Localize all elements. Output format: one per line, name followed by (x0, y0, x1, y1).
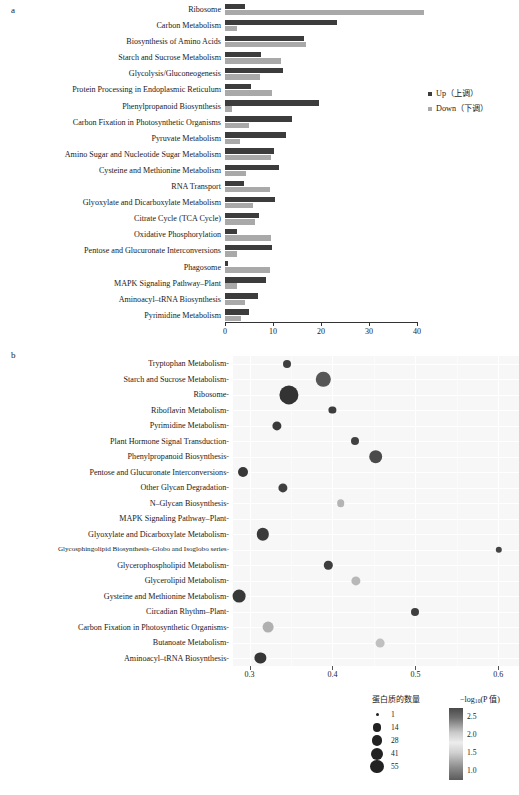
size-legend-dot (370, 760, 384, 774)
dot-plot-row: Glycerolipid Metabolism- (0, 573, 233, 589)
size-legend-label: 55 (391, 762, 399, 771)
bar-chart-row: Starch and Sucrose Metabolism (0, 50, 519, 66)
dot-plot-category-label: Glycerolipid Metabolism- (145, 573, 229, 589)
size-legend-item: 41 (355, 747, 437, 760)
bar-chart-category-label: Oxidative Phosphorylation (0, 227, 224, 243)
dot-plot-point (351, 576, 360, 585)
bar-chart-category-label: Ribosome (0, 2, 224, 18)
axis-tick-dash: - (226, 638, 229, 647)
dot-plot-category-text: Glycerophospholipid Metabolism (117, 561, 226, 570)
bar-chart-bar-group (225, 276, 425, 292)
axis-tick (321, 322, 322, 326)
axis-tick-dash: - (227, 545, 229, 553)
dot-plot-point (324, 561, 332, 569)
bar-up (225, 309, 249, 314)
axis-tick-label: 0.5 (410, 670, 420, 679)
bar-chart-row: Phagosome (0, 260, 519, 276)
axis-tick-dash: - (226, 561, 229, 570)
bar-chart-bar-group (225, 179, 425, 195)
axis-tick-dash: - (226, 375, 229, 384)
bar-down (225, 58, 281, 63)
dot-plot-row: Ribosome- (0, 387, 233, 403)
bar-chart-category-label: Carbon Metabolism (0, 18, 224, 34)
bar-up (225, 213, 259, 218)
dot-plot-row: Carbon Fixation in Photosynthetic Organi… (0, 620, 233, 636)
bar-chart-bar-group (225, 163, 425, 179)
axis-tick-label: 0.6 (493, 670, 503, 679)
bar-chart-bar-group (225, 292, 425, 308)
legend-swatch-up (428, 92, 432, 96)
axis-tick-dash: - (226, 421, 229, 430)
bar-chart-row: Biosynthesis of Amino Acids (0, 34, 519, 50)
dot-plot-points (233, 356, 519, 666)
bar-up (225, 132, 286, 137)
dot-plot-category-text: Glycosphingolipid Biosynthesis–Globo and… (58, 545, 227, 553)
dot-plot-category-label: N–Glycan Biosynthesis- (150, 496, 229, 512)
axis-tick-label: 0 (223, 327, 227, 336)
bar-chart-row: Carbon Fixation in Photosynthetic Organi… (0, 115, 519, 131)
bar-chart-row: Cysteine and Methionine Metabolism (0, 163, 519, 179)
axis-tick-dash: - (226, 483, 229, 492)
bar-chart-row: Aminoacyl–tRNA Biosynthesis (0, 292, 519, 308)
size-legend-label: 1 (391, 710, 395, 719)
bar-down (225, 187, 270, 192)
bar-up (225, 229, 237, 234)
axis-tick-dash: - (226, 499, 229, 508)
dot-plot-category-label: Pyrimidine Metabolism- (150, 418, 229, 434)
bar-chart-category-label: Glyoxylate and Dicarboxylate Metabolism (0, 195, 224, 211)
size-legend-dot-cell (367, 760, 387, 774)
color-legend-tick-label: 1.5 (467, 748, 477, 757)
size-legend-dot (372, 735, 383, 746)
bar-down (225, 10, 424, 15)
dot-plot-row: Phenylpropanoid Biosynthesis- (0, 449, 233, 465)
dot-plot-category-text: Tryptophan Metabolism (148, 359, 226, 368)
dot-plot-row: MAPK Signaling Pathway–Plant- (0, 511, 233, 527)
color-legend-title-suffix: (P 值) (480, 695, 499, 704)
size-legend-label: 14 (391, 723, 399, 732)
bar-up (225, 84, 251, 89)
dot-plot-category-text: Gysteine and Methionine Metabolism (104, 592, 227, 601)
bar-chart-category-label: Citrate Cycle (TCA Cycle) (0, 211, 224, 227)
axis-tick-label: 40 (413, 327, 421, 336)
color-legend-title-prefix: −log (460, 695, 475, 704)
dot-plot-point (329, 407, 336, 414)
dot-plot-row: Other Glycan Degradation- (0, 480, 233, 496)
bar-chart-category-label: Pyruvate Metabolism (0, 131, 224, 147)
dot-plot-row: Plant Hormone Signal Transduction- (0, 434, 233, 450)
bar-chart-row: Glyoxylate and Dicarboxylate Metabolism (0, 195, 519, 211)
bar-down (225, 171, 246, 176)
bar-chart-bar-group (225, 34, 425, 50)
bar-chart-category-label: Glycolysis/Gluconeogenesis (0, 66, 224, 82)
bar-chart-category-label: Amino Sugar and Nucleotide Sugar Metabol… (0, 147, 224, 163)
dot-plot-row: Circadian Rhythm–Plant- (0, 604, 233, 620)
bar-up (225, 197, 275, 202)
bar-chart-row: Ribosome (0, 2, 519, 18)
dot-plot-category-label: Gysteine and Methionine Metabolism- (104, 589, 229, 605)
bar-up (225, 116, 292, 121)
size-legend: 蛋白质的数量 114284155 (355, 693, 437, 773)
axis-tick-dash: - (226, 592, 229, 601)
bar-chart-row: RNA Transport (0, 179, 519, 195)
axis-tick (415, 666, 416, 670)
bar-chart-bar-group (225, 82, 425, 98)
dot-plot-category-label: Glycosphingolipid Biosynthesis–Globo and… (58, 542, 229, 558)
bar-chart-legend: Up（上调）Down（下调） (428, 86, 488, 116)
dot-plot-category-label: Aminoacyl–tRNA Biosynthesis- (124, 651, 229, 667)
bar-up (225, 277, 266, 282)
dot-plot-category-label: Starch and Sucrose Metabolism- (124, 372, 229, 388)
legend-label-down: Down（下调） (436, 101, 488, 116)
dot-plot-row: Starch and Sucrose Metabolism- (0, 372, 233, 388)
bar-up (225, 20, 337, 25)
dot-plot-category-label: Carbon Fixation in Photosynthetic Organi… (78, 620, 229, 636)
axis-tick-dash: - (226, 437, 229, 446)
color-legend-title: −log10(P 值) (441, 693, 519, 704)
dot-plot-category-text: Pentose and Glucuronate Interconversions (89, 468, 226, 477)
bar-chart-bar-group (225, 18, 425, 34)
axis-tick (369, 322, 370, 326)
bar-chart-row: Pyruvate Metabolism (0, 131, 519, 147)
bar-chart-bar-group (225, 50, 425, 66)
bar-down (225, 155, 271, 160)
dot-plot-category-text: Other Glycan Degradation (140, 483, 226, 492)
bar-chart-bar-group (225, 2, 425, 18)
dot-plot-category-text: Riboflavin Metabolism (151, 406, 226, 415)
